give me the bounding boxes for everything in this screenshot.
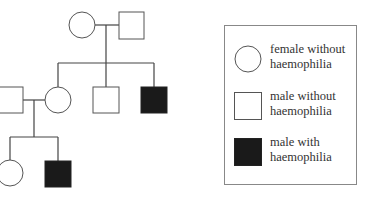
legend-label: male without haemophilia — [270, 89, 336, 119]
legend-label-line1: female without — [270, 42, 345, 57]
legend-label-line1: male without — [270, 89, 336, 104]
legend-item-female-unaffected: female without haemophilia — [234, 42, 354, 76]
individual-III-1-female-unaffected — [0, 160, 23, 186]
legend-label-line2: haemophilia — [270, 150, 332, 165]
individual-II-2-female-unaffected — [45, 87, 71, 113]
individual-II-1-male-unaffected — [0, 87, 23, 113]
legend: female without haemophilia male without … — [224, 25, 357, 185]
square-open-icon — [234, 92, 262, 120]
square-filled-icon — [234, 138, 262, 166]
individual-II-3-male-unaffected — [93, 87, 119, 113]
individual-III-2-male-affected — [45, 161, 71, 187]
legend-label: male with haemophilia — [270, 135, 332, 165]
legend-label-line2: haemophilia — [270, 57, 345, 72]
legend-item-male-affected: male with haemophilia — [234, 135, 354, 169]
legend-label-line2: haemophilia — [270, 104, 336, 119]
circle-open-icon — [234, 45, 262, 73]
legend-label: female without haemophilia — [270, 42, 345, 72]
legend-label-line1: male with — [270, 135, 332, 150]
individual-I-1-female-unaffected — [69, 12, 95, 38]
individual-I-2-male-unaffected — [119, 12, 144, 39]
legend-item-male-unaffected: male without haemophilia — [234, 89, 354, 123]
individual-II-4-male-affected — [141, 87, 167, 113]
